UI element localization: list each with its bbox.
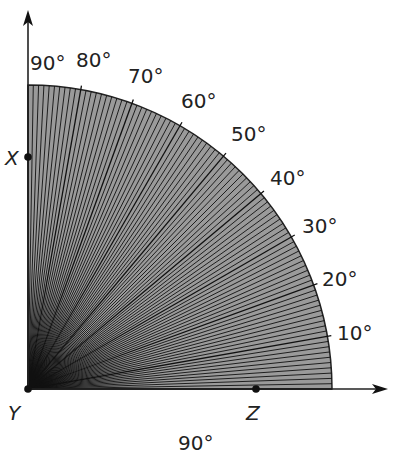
- point-z-dot: [252, 385, 260, 393]
- point-y-label: Y: [8, 401, 22, 425]
- point-y-dot: [24, 385, 32, 393]
- angle-label-20: 20°: [322, 267, 357, 291]
- angle-label-50: 50°: [231, 122, 266, 146]
- protractor-diagram: 90°80°70°60°50°40°30°20°10° XYZ 90°: [0, 0, 396, 454]
- angle-label-60: 60°: [181, 89, 216, 113]
- angle-label-10: 10°: [337, 321, 372, 345]
- point-x-label: X: [4, 146, 20, 170]
- point-z-label: Z: [245, 401, 261, 425]
- angle-label-80: 80°: [76, 48, 111, 72]
- bottom-angle-label: 90°: [178, 431, 213, 454]
- angle-label-30: 30°: [302, 214, 337, 238]
- angle-label-90: 90°: [30, 51, 65, 75]
- angle-label-40: 40°: [270, 166, 305, 190]
- point-x-dot: [24, 153, 32, 161]
- angle-label-70: 70°: [128, 64, 163, 88]
